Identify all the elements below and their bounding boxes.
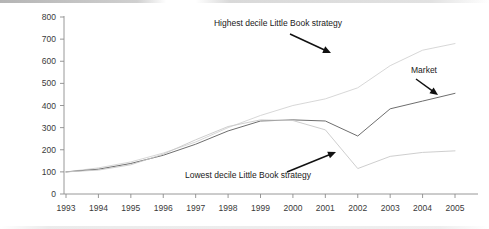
x-tick-label: 2003 (381, 203, 400, 213)
y-tick-label: 600 (42, 56, 56, 66)
series-line-2 (66, 120, 455, 172)
y-tick-label: 400 (42, 101, 56, 111)
x-tick-label: 2005 (446, 203, 465, 213)
annotation-arrow-shaft (416, 79, 433, 91)
x-tick-label: 1996 (154, 203, 173, 213)
annotation-label: Market (411, 65, 438, 75)
annotation-arrow-head (429, 87, 438, 95)
annotation-label: Lowest decile Little Book strategy (185, 170, 312, 180)
y-tick-label: 0 (51, 189, 56, 199)
line-chart: 0100200300400500600700800199319941995199… (0, 0, 489, 229)
annotation-arrow-shaft (290, 34, 325, 50)
chart-series-group (66, 44, 455, 172)
x-tick-label: 1997 (186, 203, 205, 213)
chart-axes (64, 16, 478, 194)
lowest-decile-annotation: Lowest decile Little Book strategy (185, 152, 336, 180)
x-tick-label: 2002 (348, 203, 367, 213)
x-tick-label: 2000 (283, 203, 302, 213)
highest-decile-annotation: Highest decile Little Book strategy (214, 18, 343, 53)
y-tick-label: 800 (42, 12, 56, 22)
y-axis-ticks: 0100200300400500600700800 (42, 12, 64, 199)
x-axis-ticks: 1993199419951996199719981999200020012002… (57, 194, 465, 213)
y-tick-label: 200 (42, 145, 56, 155)
x-tick-label: 1998 (219, 203, 238, 213)
x-tick-label: 1995 (121, 203, 140, 213)
y-tick-label: 300 (42, 123, 56, 133)
market-annotation: Market (411, 65, 438, 95)
x-tick-label: 1999 (251, 203, 270, 213)
chart-figure: 0100200300400500600700800199319941995199… (0, 0, 489, 229)
y-tick-label: 100 (42, 167, 56, 177)
y-tick-label: 700 (42, 34, 56, 44)
series-line-1 (66, 93, 455, 172)
x-tick-label: 1993 (57, 203, 76, 213)
annotation-label: Highest decile Little Book strategy (214, 18, 343, 28)
x-tick-label: 1994 (89, 203, 108, 213)
y-tick-label: 500 (42, 78, 56, 88)
x-tick-label: 2001 (316, 203, 335, 213)
x-tick-label: 2004 (413, 203, 432, 213)
